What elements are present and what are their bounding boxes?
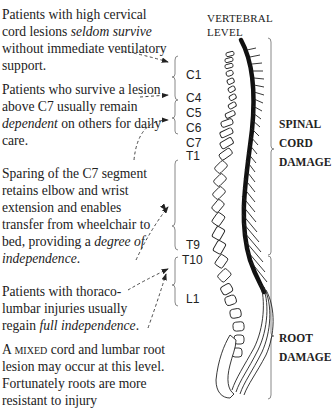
damage-braces <box>268 38 274 399</box>
pointer-arrows <box>123 51 168 328</box>
vertebrae <box>211 51 244 398</box>
level-braces <box>172 56 178 306</box>
